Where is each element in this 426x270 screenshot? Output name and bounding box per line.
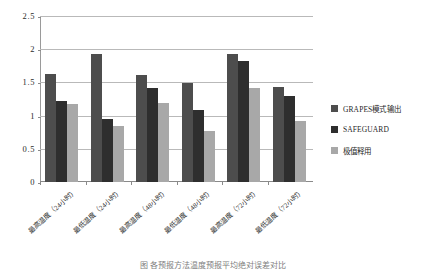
bar [56,101,67,182]
bar [204,131,215,182]
bar [147,88,158,182]
bar [182,83,193,182]
bar [284,96,295,182]
x-axis-tick-mark [177,182,178,185]
bar-group [136,16,169,182]
bar [113,126,124,182]
bar [91,54,102,182]
plot-area [40,16,313,182]
y-axis-tick-label: 1.5 [1,77,35,87]
legend-item: GRAPES模式输出 [331,98,425,119]
bar [102,119,113,182]
bar [238,61,249,182]
bar [273,87,284,182]
bar-group [182,16,215,182]
y-axis-tick-label: 0 [1,177,35,187]
legend-swatch-icon [331,126,338,133]
bar [249,88,260,182]
legend-swatch-icon [331,147,338,154]
y-axis-tick-label: 1 [1,111,35,121]
x-axis-tick-mark [40,182,41,185]
bar [136,75,147,182]
bar-group [273,16,306,182]
figure-caption: 图 各预报方法温度预报平均绝对误差对比 [0,259,426,270]
bar [158,103,169,182]
bar [45,74,56,182]
x-axis-tick-mark [268,182,269,185]
legend-item-label: GRAPES模式输出 [343,103,401,114]
bar-group [45,16,78,182]
x-axis-tick-mark [131,182,132,185]
legend-item: 极值释用 [331,140,425,161]
y-axis-tick-label: 0.5 [1,144,35,154]
bar-group [227,16,260,182]
bar [295,121,306,182]
bar [227,54,238,182]
legend-item-label: SAFEGUARD [343,125,389,134]
chart-legend: GRAPES模式输出SAFEGUARD极值释用 [331,98,425,161]
legend-swatch-icon [331,105,338,112]
legend-item-label: 极值释用 [343,145,371,156]
bar-group [91,16,124,182]
bar [67,104,78,182]
x-axis-tick-mark [86,182,87,185]
bars-layer [40,16,313,182]
y-axis-tick-label: 2.5 [1,11,35,21]
bar [193,110,204,182]
legend-item: SAFEGUARD [331,119,425,140]
y-axis-tick-label: 2 [1,44,35,54]
x-axis-tick-mark [222,182,223,185]
